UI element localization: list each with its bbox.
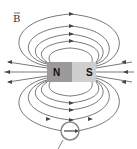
north-label: N: [53, 67, 60, 78]
lower-field-arrows: [46, 101, 93, 122]
south-label: S: [86, 67, 93, 78]
compass-leader-line: [58, 140, 63, 149]
bar-magnet: N S: [47, 62, 96, 82]
compass-icon: [58, 122, 79, 149]
field-label-b: B: [13, 13, 20, 24]
bar-magnet-diagram: B: [0, 0, 137, 149]
upper-field-arrows: [69, 12, 74, 43]
svg-text:B: B: [13, 13, 20, 24]
